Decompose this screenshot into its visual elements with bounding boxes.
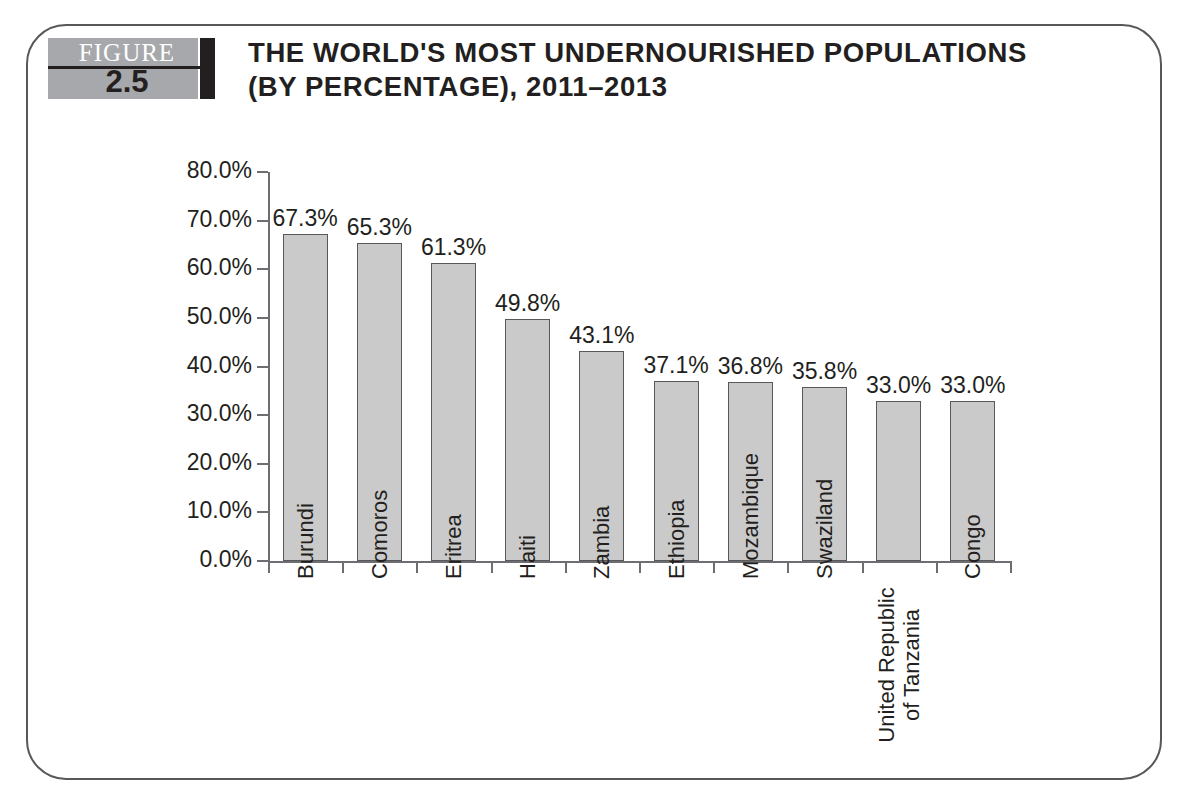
x-axis-category-label: Eritrea [441, 514, 466, 579]
x-axis-tick-mark [491, 561, 493, 573]
figure-badge: FIGURE 2.5 [48, 38, 215, 99]
x-axis-category-label-line: United Republic [874, 587, 899, 742]
x-axis-category-label: Comoros [367, 490, 392, 579]
x-axis-category-label: Haiti [515, 535, 540, 579]
y-axis-tick-mark [257, 511, 268, 513]
y-axis-tick-label: 10.0% [187, 497, 252, 524]
x-axis-tick-mark [1010, 561, 1012, 573]
bar-value-label: 61.3% [409, 234, 499, 261]
x-axis-category-label: United Republicof Tanzania [874, 579, 924, 751]
x-axis-tick-mark [936, 561, 938, 573]
x-axis-category-label-line: Congo [960, 514, 985, 579]
x-axis-tick-mark [787, 561, 789, 573]
figure-page: FIGURE 2.5 THE WORLD'S MOST UNDERNOURISH… [0, 0, 1189, 809]
x-axis-tick-mark [268, 561, 270, 573]
bar[interactable] [876, 401, 921, 561]
y-axis-tick-label: 0.0% [200, 546, 252, 573]
x-axis-category-label: Zambia [589, 506, 614, 579]
y-axis-tick-mark [257, 463, 268, 465]
y-axis-tick-mark [257, 268, 268, 270]
x-axis-category-label: Ethiopia [664, 499, 689, 579]
x-axis-tick-mark [416, 561, 418, 573]
chart-plot-area: 80.0%70.0%60.0%50.0%40.0%30.0%20.0%10.0%… [268, 172, 1010, 563]
x-axis-category-label: Mozambique [738, 453, 763, 579]
y-axis-tick-mark [257, 560, 268, 562]
chart-title-line-2: (BY PERCENTAGE), 2011–2013 [248, 70, 1148, 104]
x-axis-category-label: Burundi [293, 503, 318, 579]
figure-badge-word: FIGURE [56, 39, 198, 66]
bar-value-label: 49.8% [483, 290, 573, 317]
x-axis-tick-mark [862, 561, 864, 573]
x-axis-tick-mark [342, 561, 344, 573]
chart-title-line-1: THE WORLD'S MOST UNDERNOURISHED POPULATI… [248, 36, 1148, 70]
y-axis-tick-mark [257, 366, 268, 368]
x-axis-category-label-line: Burundi [293, 503, 318, 579]
y-axis-tick-mark [257, 414, 268, 416]
x-axis-category-label-line: Comoros [367, 490, 392, 579]
y-axis-tick-mark [257, 171, 268, 173]
y-axis-tick-label: 20.0% [187, 449, 252, 476]
y-axis-tick-label: 80.0% [187, 157, 252, 184]
x-axis-category-label-line: Eritrea [441, 514, 466, 579]
bar-value-label: 33.0% [928, 372, 1018, 399]
x-axis-category-label-line: Swaziland [812, 479, 837, 579]
x-axis-category-label-line: of Tanzania [899, 609, 924, 721]
figure-badge-number: 2.5 [56, 65, 198, 99]
y-axis-tick-mark [257, 317, 268, 319]
bar[interactable] [505, 319, 550, 561]
y-axis-tick-label: 30.0% [187, 400, 252, 427]
x-axis-category-label-line: Ethiopia [664, 499, 689, 579]
x-axis-category-label: Congo [960, 514, 985, 579]
y-axis-tick-label: 70.0% [187, 206, 252, 233]
x-axis-tick-mark [565, 561, 567, 573]
y-axis-tick-label: 60.0% [187, 254, 252, 281]
x-axis-category-label-line: Mozambique [738, 453, 763, 579]
y-axis-tick-label: 40.0% [187, 352, 252, 379]
x-axis-category-label: Swaziland [812, 479, 837, 579]
chart-title: THE WORLD'S MOST UNDERNOURISHED POPULATI… [248, 36, 1148, 104]
x-axis-tick-mark [639, 561, 641, 573]
bar-value-label: 43.1% [557, 322, 647, 349]
figure-badge-end-bar [200, 38, 215, 99]
x-axis-tick-mark [713, 561, 715, 573]
y-axis-tick-label: 50.0% [187, 303, 252, 330]
x-axis-category-label-line: Haiti [515, 535, 540, 579]
x-axis-category-label-line: Zambia [589, 506, 614, 579]
